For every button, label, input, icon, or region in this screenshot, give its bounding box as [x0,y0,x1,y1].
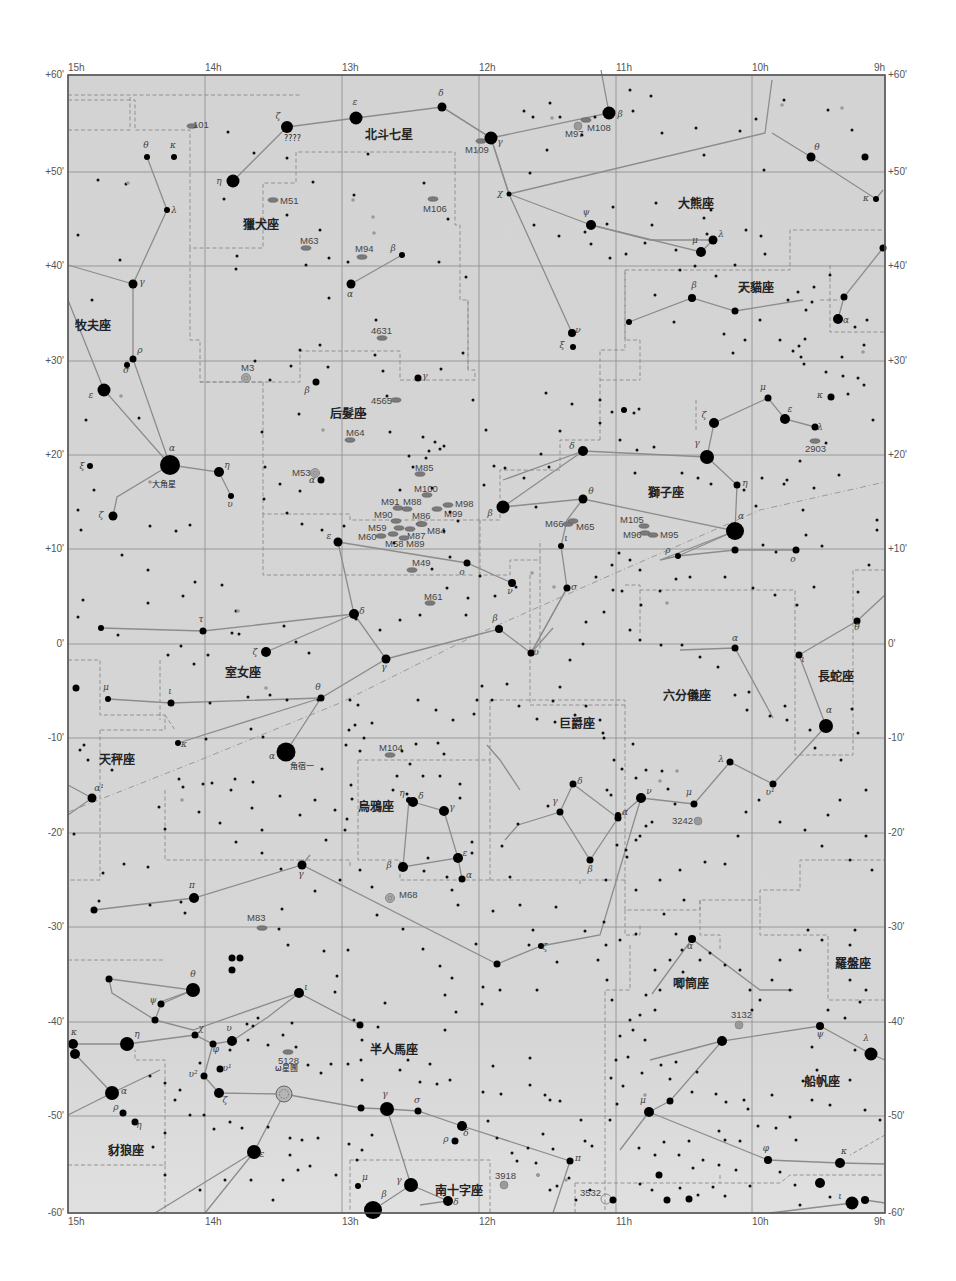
faint-star-icon [606,789,609,792]
faint-star-icon [451,889,454,892]
faint-star-icon [459,783,462,786]
bayer-letter-label: γ [694,438,700,448]
star-icon [313,379,320,386]
faint-star-icon [399,1069,402,1072]
faint-star-icon [519,904,522,907]
faint-star-icon [77,234,80,237]
faint-star-icon [299,349,302,352]
faint-star-icon [422,436,425,439]
faint-star-icon [236,255,239,258]
faint-star-icon [209,702,212,705]
faint-star-icon [361,1039,364,1042]
faint-star-icon [299,814,302,817]
faint-star-icon [675,933,678,936]
faint-star-icon [262,736,265,739]
faint-star-icon [121,554,124,557]
faint-star-icon [681,644,684,647]
galaxy-icon [257,926,267,931]
faint-star-icon [549,1189,552,1192]
galaxy-icon [402,507,412,512]
faint-star-icon [827,1009,830,1012]
faint-star-icon [443,753,446,756]
bayer-letter-label: θ [190,969,196,979]
bayer-letter-label: υ¹ [222,1063,231,1073]
faint-star-icon [297,1169,300,1172]
faint-star-icon [678,1154,681,1157]
faint-star-icon [527,1147,530,1150]
star-icon [557,809,564,816]
faint-star-icon [544,1094,547,1097]
faint-star-icon [264,466,267,469]
constellation-name: 北斗七星 [365,127,413,142]
faint-variable-star-icon [840,106,844,110]
bayer-letter-label: κ [70,1027,77,1037]
faint-star-icon [252,1025,255,1028]
faint-variable-star-icon [550,116,554,120]
bayer-letter-label: ν [646,786,652,796]
faint-star-icon [180,645,183,648]
bayer-letter-label: ε [788,404,793,414]
faint-star-icon [409,763,412,766]
bayer-letter-label: η [134,1029,140,1039]
star-icon [91,907,98,914]
faint-star-icon [675,578,678,581]
faint-star-icon [813,286,816,289]
faint-star-icon [632,110,635,113]
faint-star-icon [482,986,485,989]
faint-star-icon [621,590,624,593]
faint-star-icon [724,1139,727,1142]
bayer-letter-label: δ [359,606,364,616]
faint-star-icon [459,797,462,800]
faint-star-icon [757,1125,760,1128]
faint-star-icon [494,595,497,598]
bayer-letter-label: ε [353,97,358,107]
ra-label-bottom: 12h [479,1216,496,1227]
faint-star-icon [325,839,328,842]
faint-star-icon [752,587,755,590]
faint-star-icon [471,841,474,844]
faint-star-icon [718,1130,721,1133]
faint-star-icon [599,422,602,425]
galaxy-icon [428,197,438,202]
faint-star-icon [492,1065,495,1068]
bayer-letter-label: δ [453,1197,458,1207]
faint-star-icon [857,591,860,594]
faint-star-icon [164,1174,167,1177]
faint-star-icon [496,1137,499,1140]
star-icon [578,446,588,456]
star-icon [861,1196,869,1204]
faint-star-icon [198,811,201,814]
constellation-name: 豺狼座 [107,1143,144,1158]
constellation-name: 巨爵座 [559,716,595,731]
faint-star-icon [633,412,636,415]
faint-star-icon [779,339,782,342]
star-icon [160,455,180,475]
bayer-letter-label: ρ [136,345,143,355]
bayer-letter-label: ρ [442,1134,449,1144]
star-icon [227,175,240,188]
dso-label: M104 [379,742,403,753]
faint-star-icon [771,1094,774,1097]
faint-star-icon [371,886,374,889]
faint-star-icon [428,450,431,453]
faint-star-icon [603,737,606,740]
star-icon [873,196,879,202]
faint-star-icon [612,589,615,592]
faint-star-icon [529,1084,532,1087]
faint-star-icon [849,859,852,862]
faint-star-icon [509,876,512,879]
bayer-letter-label: σ [571,582,578,592]
star-icon [732,645,739,652]
faint-star-icon [847,393,850,396]
faint-star-icon [811,1099,814,1102]
faint-star-icon [493,465,496,468]
galaxy-icon [283,1050,293,1055]
faint-star-icon [546,149,549,152]
dec-label-left: -50' [48,1110,64,1121]
dso-label: 4565 [371,395,392,406]
faint-star-icon [794,1184,797,1187]
faint-star-icon [663,913,666,916]
faint-star-icon [871,869,874,872]
faint-star-icon [279,483,282,486]
star-icon [186,983,200,997]
